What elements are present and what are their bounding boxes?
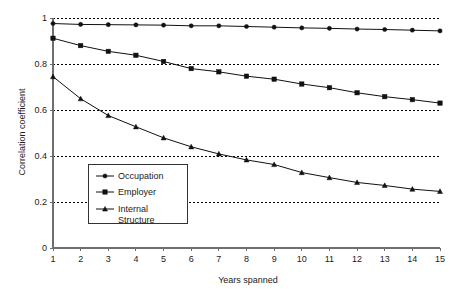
x-tick-label: 14 <box>407 254 417 264</box>
data-point-marker <box>327 26 331 30</box>
x-tick-label: 8 <box>244 254 249 264</box>
data-point-marker <box>161 59 165 63</box>
data-point-marker <box>51 21 55 25</box>
x-tick-label: 6 <box>189 254 194 264</box>
data-point-marker <box>355 27 359 31</box>
x-tick-label: 13 <box>380 254 390 264</box>
data-point-marker <box>300 26 304 30</box>
data-point-marker <box>51 36 55 40</box>
data-point-marker <box>300 82 304 86</box>
data-point-marker <box>272 77 276 81</box>
legend-label: Employer <box>118 187 156 197</box>
legend-marker-circle <box>103 174 107 178</box>
data-point-marker <box>438 101 442 105</box>
data-point-marker <box>134 23 138 27</box>
data-point-marker <box>244 24 248 28</box>
legend-label: Occupation <box>118 171 164 181</box>
x-tick-label: 2 <box>78 254 83 264</box>
x-tick-label: 7 <box>216 254 221 264</box>
data-point-marker <box>244 74 248 78</box>
chart-container: 00.20.40.60.81 123456789101112131415 Occ… <box>0 0 454 289</box>
data-point-marker <box>410 97 414 101</box>
x-tick-label: 10 <box>297 254 307 264</box>
y-tick-label: 0.8 <box>34 59 47 69</box>
data-point-marker <box>438 29 442 33</box>
data-point-marker <box>383 94 387 98</box>
x-tick-label: 4 <box>133 254 138 264</box>
data-point-marker <box>217 70 221 74</box>
y-tick-label: 0.4 <box>34 151 47 161</box>
data-point-marker <box>189 66 193 70</box>
x-tick-label: 15 <box>435 254 445 264</box>
data-point-marker <box>383 27 387 31</box>
x-axis-title: Years spanned <box>218 275 278 285</box>
y-axis-title: Correlation coefficient <box>17 88 27 175</box>
y-tick-label: 0.2 <box>34 197 47 207</box>
x-tick-label: 3 <box>106 254 111 264</box>
x-tick-label: 11 <box>325 254 334 264</box>
data-point-marker <box>134 53 138 57</box>
x-tick-labels-group: 123456789101112131415 <box>50 254 445 264</box>
correlation-line-chart: 00.20.40.60.81 123456789101112131415 Occ… <box>0 0 454 289</box>
data-point-marker <box>355 91 359 95</box>
data-point-marker <box>78 43 82 47</box>
data-point-marker <box>79 22 83 26</box>
data-point-marker <box>106 23 110 27</box>
data-point-marker <box>410 28 414 32</box>
data-point-marker <box>217 24 221 28</box>
y-tick-label: 0.6 <box>34 105 47 115</box>
data-point-marker <box>106 49 110 53</box>
data-point-marker <box>327 85 331 89</box>
x-tick-label: 12 <box>352 254 362 264</box>
data-point-marker <box>189 24 193 28</box>
data-point-marker <box>272 25 276 29</box>
chart-background <box>0 0 454 289</box>
legend-label: Internal <box>118 204 148 214</box>
data-point-marker <box>161 23 165 27</box>
y-tick-label: 1 <box>42 13 47 23</box>
x-tick-label: 5 <box>161 254 166 264</box>
x-tick-label: 1 <box>50 254 55 264</box>
y-tick-label: 0 <box>42 243 47 253</box>
chart-legend: OccupationEmployerInternalStructure <box>88 164 187 225</box>
legend-label-line2: Structure <box>118 215 155 225</box>
legend-marker-square <box>103 190 107 194</box>
x-tick-label: 9 <box>272 254 277 264</box>
